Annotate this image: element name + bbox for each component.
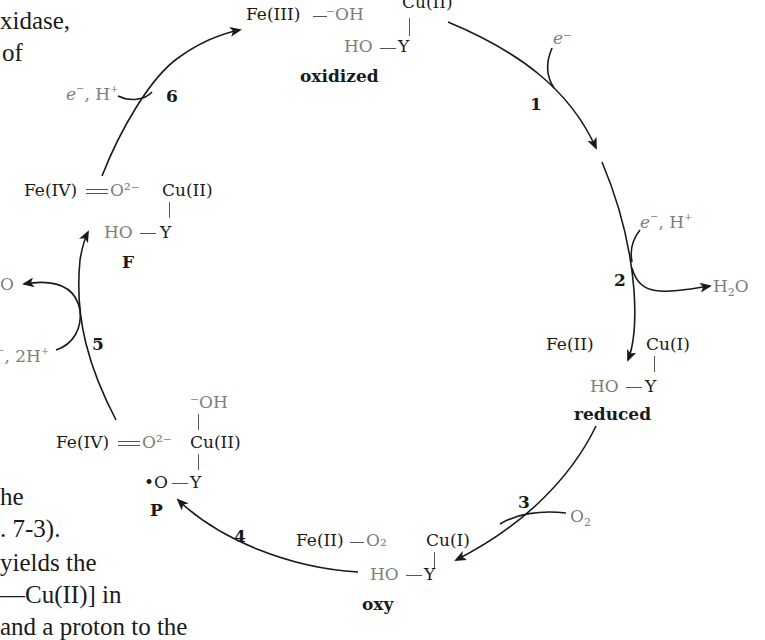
tyr-y: Y [645,378,656,395]
bond [406,575,422,576]
bond [169,202,170,218]
step2-input: e−, H+ [640,212,692,231]
proton: , H [84,84,110,104]
sub2: 2 [584,516,591,529]
body-text-line: he [0,484,24,509]
fe-ligand: O²⁻ [110,182,140,199]
fe-ligand: ⁻OH [326,6,364,23]
protons: , 2H [4,346,40,366]
cu-label: Cu(I) [426,532,470,549]
step-number: 1 [530,94,542,114]
step2-input-curve [631,230,640,262]
bond [350,542,364,543]
o: O [570,506,584,526]
body-text-line: of [2,40,23,65]
h: H [713,276,728,296]
step-number: 6 [166,86,178,106]
double-bond [118,445,140,446]
fe-ligand: O²⁻ [142,434,172,451]
tyr-oh: HO [344,38,373,55]
fe-label: Fe(III) [246,6,300,23]
step5-output-curve [24,282,80,310]
step6-input-curve [118,92,152,99]
step2-output-curve [632,268,710,291]
double-bond [86,193,108,194]
step1-input: e⁻ [553,30,572,47]
state-label-reduced: reduced [574,404,651,424]
bond [313,16,327,17]
tyr-oh: HO [370,566,399,583]
double-bond [118,441,140,442]
fe-label: Fe(IV) [24,182,77,199]
step1-arrow [448,22,596,148]
cu-label: Cu(II) [190,434,241,451]
tyr-y: Y [190,474,201,491]
step-number: 2 [614,270,626,290]
step2-arrow [602,162,635,360]
bond [409,18,410,36]
tyr-y: Y [160,224,171,241]
bond [654,356,655,372]
bond [172,483,188,484]
double-bond [86,189,108,190]
cu-label: Cu(II) [162,182,213,199]
step5-input-curve [56,310,80,350]
o: O [735,276,749,296]
bond [626,387,642,388]
body-text-line: xidase, [0,8,70,33]
body-text-line: . 7-3). [0,516,60,541]
fe-ligand: O₂ [366,532,387,549]
state-label-p: P [150,500,163,520]
step-number: 4 [234,526,246,546]
bond [140,233,156,234]
cu-label: Cu(I) [646,336,690,353]
step3-input-curve [500,512,566,524]
bond [198,454,199,470]
tyr-oh: HO [104,224,133,241]
fe-label: Fe(II) [546,336,594,353]
body-text-line: —Cu(II)] in [0,582,122,607]
state-label-oxy: oxy [362,594,393,614]
cu-label: Cu(II) [402,0,453,11]
step-number: 3 [518,492,530,512]
step2-output-h2o: H2O [713,278,749,298]
state-label-oxidized: oxidized [300,66,379,86]
bond [198,414,199,430]
tyr-radical: •O [144,474,168,491]
proton: , H [658,212,684,232]
fe-label: Fe(IV) [56,434,109,451]
bond [380,48,396,49]
step5-input: −, 2H+ [0,346,49,365]
tyr-y: Y [424,566,435,583]
tyr-oh: HO [590,378,619,395]
step3-input-o2: O2 [570,508,591,528]
body-text-line: yields the [0,550,97,575]
body-text-line: and a proton to the [0,614,187,639]
tyr-y: Y [398,38,409,55]
electron: e [66,84,76,104]
cu-ligand: ⁻OH [190,394,228,411]
electron: e [640,212,650,232]
step-number: 5 [92,334,104,354]
sub2: 2 [728,286,735,299]
fe-label: Fe(II) [296,532,344,549]
step5-output-h2o: O [0,276,14,293]
step5-arrow [79,232,116,420]
state-label-f: F [122,252,134,272]
step6-input: e−, H+ [66,84,118,103]
